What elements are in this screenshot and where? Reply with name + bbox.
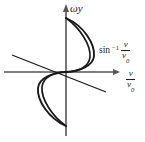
arcsin-function-name: sin [99,46,110,56]
horizontal-axis-numerator: v [128,69,134,79]
figure-container: ωy sin−1 v v0 v v0 [0,0,145,142]
horizontal-axis-fraction: v v0 [126,69,135,91]
vertical-axis-label: ωy [70,3,83,14]
plot-canvas [0,0,145,142]
arcsin-numerator: v [123,40,129,50]
vertical-axis [63,4,69,136]
arcsin-exponent: −1 [112,45,119,52]
horizontal-axis-label: v v0 [126,63,135,91]
horizontal-axis-denominator-subscript: 0 [131,86,134,93]
arcsin-fraction: v v0 [121,40,130,62]
horizontal-axis-denominator: v0 [126,80,135,92]
vertical-axis-arrowhead [63,4,69,12]
arcsin-denominator: v0 [121,51,130,63]
horizontal-axis-arrowhead [113,69,120,75]
arcsin-annotation: sin−1 v v0 [99,40,130,62]
